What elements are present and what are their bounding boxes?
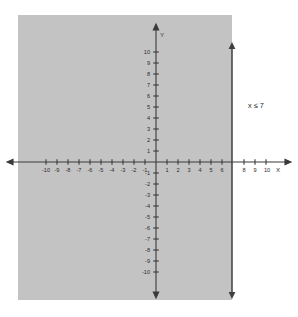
y-tick-label: -6 [145,225,150,231]
x-axis-right-arrowhead [285,159,291,164]
y-tick-label: -8 [145,247,150,253]
y-tick-label: 10 [144,49,150,55]
x-tick-label: -9 [55,167,60,173]
y-tick-label: 6 [147,93,150,99]
y-tick-label: -4 [145,203,150,209]
x-tick-label: 10 [264,167,270,173]
x-tick-label: -2 [132,167,137,173]
y-tick-label: 3 [147,126,150,132]
coordinate-plane-svg: -10 -9 -8 -7 -6 -5 -4 -3 -2 -1 1 2 3 4 5… [0,0,298,317]
y-tick-label: 1 [147,148,150,154]
x-tick-label: 5 [209,167,212,173]
y-tick-label: -1 [145,170,150,176]
x-tick-label: 4 [198,167,201,173]
y-tick-label: -2 [145,181,150,187]
x-tick-label: 2 [176,167,179,173]
x-tick-label: -7 [77,167,82,173]
y-tick-label: -5 [145,214,150,220]
x-tick-label: -6 [88,167,93,173]
x-tick-label: 1 [165,167,168,173]
x-tick-label: -4 [110,167,115,173]
y-tick-label: -10 [142,269,150,275]
y-tick-label: 4 [147,115,150,121]
inequality-graph: -10 -9 -8 -7 -6 -5 -4 -3 -2 -1 1 2 3 4 5… [0,0,298,317]
y-tick-label: -7 [145,236,150,242]
x-tick-label: -5 [99,167,104,173]
x-tick-label: -3 [121,167,126,173]
x-tick-label: -10 [42,167,50,173]
x-tick-label: 8 [242,167,245,173]
y-tick-label: 9 [147,60,150,66]
y-axis-label: Y [160,31,164,38]
y-tick-label: -9 [145,258,150,264]
y-tick-label: 5 [147,104,150,110]
y-tick-label: 8 [147,71,150,77]
x-tick-label: 3 [187,167,190,173]
y-tick-label: 7 [147,82,150,88]
x-axis-left-arrowhead [7,159,13,164]
shaded-region-x-le-7 [18,15,232,300]
x-tick-label: 6 [220,167,223,173]
x-tick-label: -8 [66,167,71,173]
x-axis-label: X [276,166,280,173]
x-tick-label: 9 [253,167,256,173]
inequality-label: x ≤ 7 [248,101,264,110]
y-tick-label: -3 [145,192,150,198]
y-tick-label: 2 [147,137,150,143]
